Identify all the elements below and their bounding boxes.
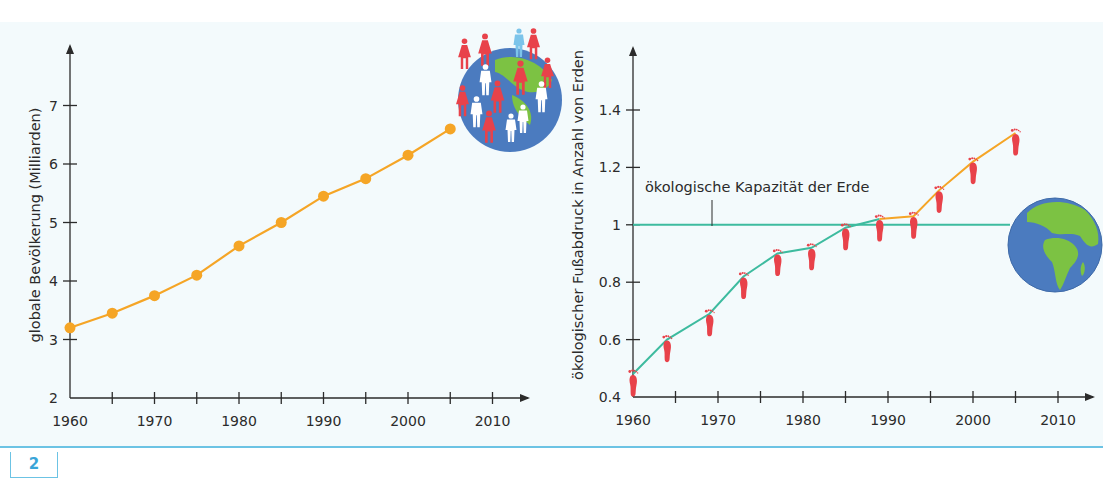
- capacity-annotation: ökologische Kapazität der Erde: [645, 179, 870, 195]
- data-point: [191, 270, 202, 281]
- x-tick-label: 1970: [137, 413, 173, 429]
- earth-globe-icon: [1008, 198, 1102, 292]
- data-point: [276, 217, 287, 228]
- y-tick-label: 0.8: [599, 274, 621, 290]
- data-point: [360, 173, 371, 184]
- data-point: [445, 123, 456, 134]
- x-tick-label: 2010: [475, 413, 511, 429]
- data-point: [107, 308, 118, 319]
- y-tick-label: 7: [49, 98, 58, 114]
- population-chart: 234567 196019701980199020002010 globale …: [27, 28, 562, 429]
- footprint-series-line-above: [880, 133, 1016, 219]
- y-tick-label: 1.4: [599, 102, 621, 118]
- y-tick-label: 5: [49, 215, 58, 231]
- x-tick-label: 1980: [785, 412, 821, 428]
- y-tick-label: 0.6: [599, 332, 621, 348]
- y-tick-label: 2: [49, 390, 58, 406]
- x-tick-label: 1960: [615, 412, 651, 428]
- x-tick-label: 1970: [700, 412, 736, 428]
- charts-canvas: 234567 196019701980199020002010 globale …: [0, 0, 1113, 484]
- population-series-line: [70, 129, 450, 328]
- footprint-y-ticks: 0.40.60.811.21.4: [599, 102, 640, 405]
- x-tick-label: 1990: [306, 413, 342, 429]
- data-point: [403, 150, 414, 161]
- x-tick-label: 2010: [1040, 412, 1076, 428]
- x-tick-label: 1990: [870, 412, 906, 428]
- y-tick-label: 1.2: [599, 159, 621, 175]
- population-y-axis-title: globale Bevölkerung (Milliarden): [27, 108, 43, 343]
- y-tick-label: 4: [49, 273, 58, 289]
- x-tick-label: 2000: [390, 413, 426, 429]
- figure-number: 2: [10, 452, 58, 478]
- x-tick-label: 1980: [221, 413, 257, 429]
- globe-with-people-icon: [456, 28, 562, 152]
- population-data-points: [65, 123, 456, 333]
- footprint-chart: 0.40.60.811.21.4 19601970198019902000201…: [570, 48, 1102, 428]
- data-point: [318, 191, 329, 202]
- footprint-markers: [628, 128, 1020, 396]
- y-tick-label: 6: [49, 156, 58, 172]
- y-tick-label: 0.4: [599, 389, 621, 405]
- data-point: [65, 322, 76, 333]
- data-point: [234, 240, 245, 251]
- y-tick-label: 3: [49, 332, 58, 348]
- figure-bottom-rule: [0, 446, 1103, 448]
- footprint-icon: [1011, 128, 1021, 155]
- data-point: [149, 290, 160, 301]
- x-tick-label: 2000: [955, 412, 991, 428]
- population-y-ticks: 234567: [49, 98, 77, 407]
- footprint-y-axis-title: ökologischer Fußabdruck in Anzahl von Er…: [570, 50, 586, 380]
- y-tick-label: 1: [612, 217, 621, 233]
- x-tick-label: 1960: [52, 413, 88, 429]
